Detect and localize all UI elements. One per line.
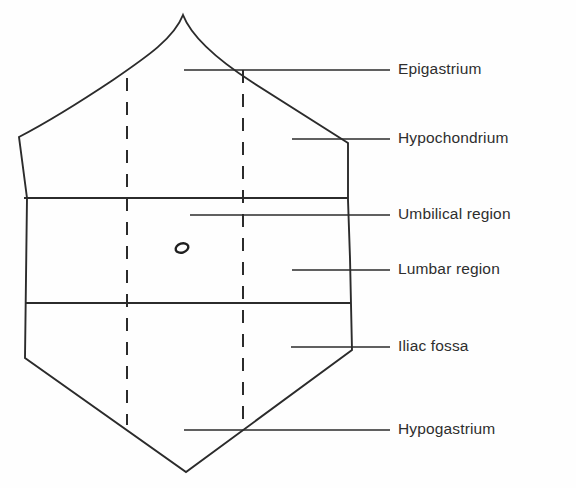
region-label-hypochondrium: Hypochondrium	[398, 130, 509, 146]
region-label-umbilical: Umbilical region	[398, 206, 511, 222]
leader-lines	[184, 70, 390, 430]
diagram-canvas	[0, 0, 576, 488]
region-label-epigastrium: Epigastrium	[398, 61, 482, 77]
umbilicus-marker-icon	[174, 242, 189, 255]
region-label-iliac-fossa: Iliac fossa	[398, 338, 469, 354]
region-label-hypogastrium: Hypogastrium	[398, 421, 495, 437]
vertical-dashed-lines	[127, 70, 243, 430]
abdominal-regions-figure: Epigastrium Hypochondrium Umbilical regi…	[0, 0, 576, 488]
region-label-lumbar: Lumbar region	[398, 261, 500, 277]
